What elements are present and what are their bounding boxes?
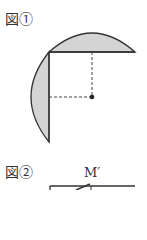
top-circular-segment — [49, 33, 135, 52]
left-circular-segment — [31, 52, 49, 142]
figure-2-label: 図② — [5, 161, 33, 181]
point-label-m-prime: M′ — [84, 165, 100, 180]
center-dot — [90, 95, 95, 100]
fig2-diagonal-stroke — [76, 184, 90, 190]
figure-2-diagram — [50, 184, 135, 190]
